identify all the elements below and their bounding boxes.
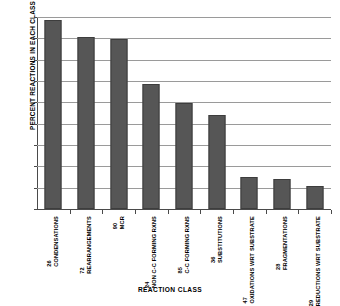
x-label-count: 85 bbox=[177, 216, 184, 273]
bar-slot bbox=[233, 17, 266, 209]
x-axis-title: REACTION CLASS bbox=[0, 286, 340, 293]
bar-slot bbox=[168, 17, 201, 209]
bar[interactable] bbox=[45, 20, 62, 209]
x-label-name: FRAGMENTATIONS bbox=[282, 216, 289, 270]
x-label-count: 90 bbox=[112, 216, 119, 229]
x-label-count: 28 bbox=[275, 216, 282, 270]
bar-slot bbox=[298, 17, 331, 209]
x-label-name: CONDENSATIONS bbox=[53, 216, 60, 267]
x-tick-mark bbox=[135, 210, 136, 214]
bar[interactable] bbox=[208, 115, 225, 210]
x-tick-mark bbox=[168, 210, 169, 214]
bar-slot bbox=[70, 17, 103, 209]
x-label-name: MCR bbox=[119, 216, 126, 229]
bars-layer bbox=[37, 17, 331, 209]
bar-slot bbox=[102, 17, 135, 209]
bar[interactable] bbox=[241, 177, 258, 209]
x-tick-mark bbox=[266, 210, 267, 214]
bar[interactable] bbox=[77, 37, 94, 209]
x-tick-mark bbox=[233, 210, 234, 214]
bar[interactable] bbox=[306, 186, 323, 209]
x-tick-mark bbox=[298, 210, 299, 214]
x-tick-mark bbox=[102, 210, 103, 214]
bar-slot bbox=[200, 17, 233, 209]
x-tick-mark bbox=[331, 210, 332, 214]
x-label-count: 36 bbox=[210, 216, 217, 263]
x-label-count: 72 bbox=[79, 216, 86, 274]
x-label-name: C-C FORMING RXNS bbox=[184, 216, 191, 273]
x-label-name: SUBSTITUTIONS bbox=[217, 216, 224, 263]
bar-slot bbox=[266, 17, 299, 209]
x-tick-mark bbox=[200, 210, 201, 214]
bar-slot bbox=[135, 17, 168, 209]
x-label-name: NON C-C FORMING RXNS bbox=[151, 216, 158, 288]
plot-area bbox=[37, 17, 331, 209]
bar-slot bbox=[37, 17, 70, 209]
x-tick-mark bbox=[70, 210, 71, 214]
x-label-name: REARRANGEMENTS bbox=[86, 216, 93, 274]
bar[interactable] bbox=[143, 84, 160, 209]
bar[interactable] bbox=[175, 103, 192, 209]
y-axis-title: PERCENT REACTIONS IN EACH CLASS bbox=[29, 0, 36, 156]
bar[interactable] bbox=[110, 39, 127, 209]
gridline bbox=[37, 209, 331, 210]
bar[interactable] bbox=[273, 179, 290, 210]
